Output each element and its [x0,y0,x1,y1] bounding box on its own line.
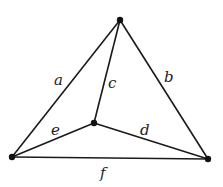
edge-label-c: c [108,74,117,92]
edge-label-a: a [54,71,63,89]
edge-label-e: e [51,121,60,139]
vertex-left [9,154,15,160]
edge-label-b: b [164,68,174,86]
edge-label-d: d [140,121,150,139]
vertex-top [117,17,123,23]
vertex-center [91,120,97,126]
vertex-right [205,156,211,162]
edge-a [12,20,120,157]
edge-label-f: f [99,164,108,182]
edge-d [94,123,208,159]
graph-diagram: a b c d e f [0,0,223,187]
edge-f [12,157,208,159]
edge-b [120,20,208,159]
